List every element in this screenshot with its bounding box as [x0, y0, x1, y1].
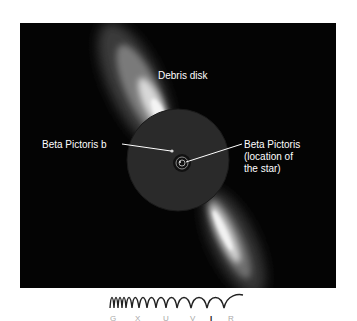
- beta-pictoris-image: Debris disk Beta Pictoris b Beta Pictori…: [20, 23, 336, 288]
- wavelength-band-indicator: G X U V I R: [108, 292, 250, 321]
- band-letter-u: U: [163, 314, 169, 321]
- band-letter-r: R: [228, 314, 234, 321]
- debris-disk-label: Debris disk: [158, 70, 207, 82]
- band-letter-v: V: [190, 314, 195, 321]
- band-letter-g: G: [110, 314, 116, 321]
- wave-spectrum-icon: [108, 292, 250, 314]
- beta-pictoris-b-label: Beta Pictoris b: [42, 139, 106, 151]
- star-label-line-1: Beta Pictoris: [244, 139, 300, 151]
- star-marker: [173, 154, 191, 172]
- band-letter-x: X: [135, 314, 140, 321]
- star-label-line-2: (location of: [244, 151, 300, 163]
- band-letter-i-active: I: [210, 314, 212, 321]
- star-label-line-3: the star): [244, 163, 300, 175]
- beta-pictoris-star-label: Beta Pictoris (location of the star): [244, 139, 300, 175]
- band-letters: G X U V I R: [108, 314, 250, 321]
